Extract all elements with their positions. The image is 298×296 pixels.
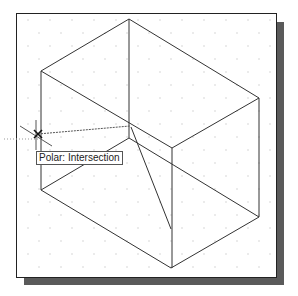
grid-dots <box>27 19 270 267</box>
box-geometry <box>41 19 259 268</box>
polar-intersection-tooltip: Polar: Intersection <box>36 151 123 165</box>
polar-tracking-lines <box>4 120 130 150</box>
drawing-canvas[interactable] <box>0 0 298 296</box>
